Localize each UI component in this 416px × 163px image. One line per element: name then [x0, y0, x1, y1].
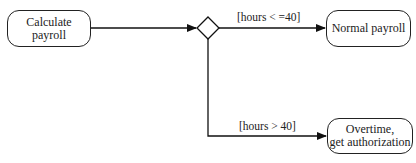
node-overtime: Overtime, get authorization [327, 118, 413, 154]
node-label: Normal payroll [332, 22, 406, 35]
guard-overtime: [hours > 40] [239, 120, 296, 132]
node-calculate-payroll: Calculate payroll [7, 10, 91, 47]
node-normal-payroll: Normal payroll [326, 10, 411, 47]
node-label-line2: get authorization [330, 136, 411, 149]
node-label: Calculate payroll [8, 16, 90, 42]
guard-normal: [hours < =40] [237, 11, 300, 23]
decision-diamond [197, 17, 219, 39]
